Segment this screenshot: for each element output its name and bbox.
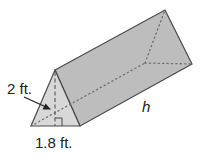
triangular-prism-diagram: 2 ft. 1.8 ft. h (0, 0, 202, 154)
prism-length-label: h (142, 98, 150, 115)
triangle-base-label: 1.8 ft. (35, 134, 73, 151)
triangle-height-label: 2 ft. (7, 80, 32, 97)
prism-right-face (55, 10, 192, 126)
